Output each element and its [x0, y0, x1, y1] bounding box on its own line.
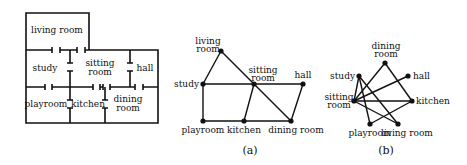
node-kitchen: [409, 98, 414, 103]
node-label-playroom: playroom: [182, 125, 225, 135]
node-label2-living: room: [196, 44, 220, 54]
edge-sitting-kitchen: [244, 84, 254, 121]
node-playroom: [200, 118, 205, 123]
node-living: [395, 121, 400, 126]
door-sitting-hall: [127, 63, 133, 71]
node-dining: [288, 118, 293, 123]
node-study: [356, 73, 361, 78]
caption-b: (b): [378, 144, 394, 157]
room-label-kitchen: kitchen: [71, 99, 105, 109]
door-study-playroom: [45, 84, 52, 90]
door-hall-dining: [135, 84, 143, 90]
node-dining: [382, 60, 387, 65]
room-label-dining2: room: [116, 103, 140, 113]
room-label-study: study: [33, 63, 59, 73]
room-label-hall: hall: [137, 63, 154, 73]
edge-sitting-dining: [254, 84, 291, 121]
node-label-hall: hall: [295, 70, 312, 80]
edge-hall-dining: [291, 84, 303, 121]
node-label-kitchen: kitchen: [227, 125, 261, 135]
room-label-sitting2: room: [88, 67, 112, 77]
door-sitting-dining: [103, 84, 110, 90]
door-sitting-kitchen: [93, 84, 100, 90]
node-study: [200, 81, 205, 86]
node-playroom: [367, 121, 372, 126]
node-kitchen: [241, 118, 246, 123]
node-hall: [405, 73, 410, 78]
caption-a: (a): [242, 144, 257, 157]
door-living-study: [52, 47, 60, 53]
door-study-sitting: [67, 63, 73, 71]
room-label-playroom: playroom: [25, 99, 68, 109]
node-label-living: living room: [381, 128, 433, 138]
node-label-hall: hall: [413, 71, 430, 81]
node-label-study: study: [330, 71, 356, 81]
edge-dining-sitting: [354, 63, 385, 101]
edge-dining-kitchen: [385, 63, 412, 101]
node-label-dining: dining room: [268, 125, 324, 135]
graph-a: livingroomstudysittingroomhallplayroomki…: [174, 36, 324, 135]
edge-living-study: [203, 51, 221, 84]
node-label-study: study: [174, 79, 200, 89]
node-label2-sitting: room: [251, 73, 275, 83]
graph-b: diningroomhallstudysittingroomkitchenpla…: [324, 41, 450, 138]
room-label-living: living room: [31, 25, 83, 35]
node-label-kitchen: kitchen: [416, 96, 450, 106]
node-hall: [300, 81, 305, 86]
diagram-canvas: living roomstudysittingroomhallplayroomk…: [0, 0, 467, 165]
node-label2-sitting: room: [327, 100, 351, 110]
door-living-sitting: [77, 47, 85, 53]
node-label2-dining: room: [374, 49, 398, 59]
